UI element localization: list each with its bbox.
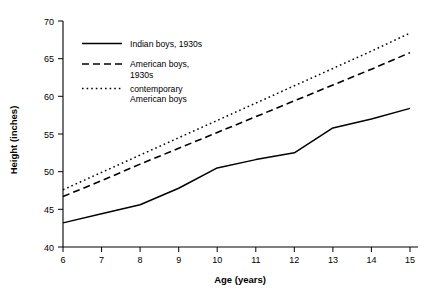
y-tick-label: 60 <box>44 92 54 102</box>
x-tick-label: 8 <box>138 255 143 265</box>
chart-figure: Height (inches) 40 45 50 55 60 65 70 <box>0 0 445 297</box>
y-tick-label: 45 <box>44 205 54 215</box>
x-tick-label: 11 <box>251 255 260 265</box>
chart-legend: Indian boys, 1930s American boys, 1930s … <box>82 39 202 105</box>
y-tick-label: 70 <box>44 17 54 27</box>
x-tick-label: 6 <box>60 255 65 265</box>
x-tick-label: 10 <box>212 255 222 265</box>
legend-label-american-boys-1930s-line2: 1930s <box>130 70 153 80</box>
y-tick-label: 65 <box>44 54 54 64</box>
series-line-indian-boys-1930s <box>63 108 410 223</box>
series-line-american-boys-1930s <box>63 53 410 197</box>
x-tick-label: 14 <box>366 255 376 265</box>
x-tick-label: 7 <box>99 255 104 265</box>
x-tick-label: 13 <box>328 255 338 265</box>
x-axis-title: Age (years) <box>214 274 266 285</box>
legend-label-contemporary-american-boys-line2: American boys <box>130 94 187 104</box>
x-tick-label: 12 <box>289 255 299 265</box>
line-chart-svg: Height (inches) 40 45 50 55 60 65 70 <box>0 0 445 297</box>
x-axis-ticks: 6 7 8 9 10 11 12 13 14 15 <box>60 247 415 265</box>
x-tick-label: 9 <box>176 255 181 265</box>
y-axis-title: Height (inches) <box>8 106 19 175</box>
y-tick-label: 55 <box>44 130 54 140</box>
y-tick-label: 50 <box>44 167 54 177</box>
legend-label-indian-boys-1930s: Indian boys, 1930s <box>130 39 202 49</box>
y-axis-ticks: 40 45 50 55 60 65 70 <box>44 17 63 253</box>
legend-label-contemporary-american-boys: contemporary <box>130 84 183 94</box>
legend-label-american-boys-1930s: American boys, <box>130 59 189 69</box>
y-tick-label: 40 <box>44 243 54 253</box>
x-tick-label: 15 <box>405 255 415 265</box>
series-line-contemporary-american-boys <box>63 33 410 190</box>
